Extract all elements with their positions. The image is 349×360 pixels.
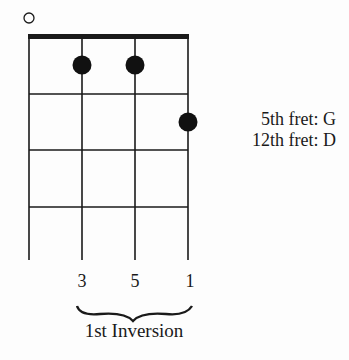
side-note-line-2: 12th fret: D <box>200 130 336 151</box>
interval-label-5: 5 <box>125 271 145 292</box>
strings <box>29 36 188 260</box>
finger-dot-icon <box>73 56 92 75</box>
brace-icon <box>77 306 192 321</box>
caption: 1st Inversion <box>64 320 204 342</box>
nut <box>28 34 189 39</box>
interval-label-3: 3 <box>72 271 92 292</box>
frets <box>29 94 188 207</box>
open-string-icon <box>24 13 34 23</box>
finger-dot-icon <box>179 113 198 132</box>
chord-diagram <box>0 0 349 360</box>
finger-dot-icon <box>126 56 145 75</box>
side-note-line-1: 5th fret: G <box>200 109 336 130</box>
interval-label-1: 1 <box>180 271 200 292</box>
